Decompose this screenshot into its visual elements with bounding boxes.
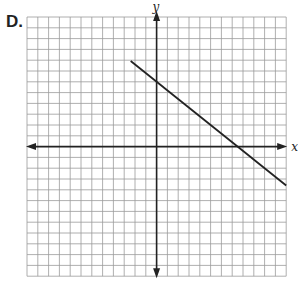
axes <box>26 11 287 278</box>
x-axis-label: x <box>291 140 298 154</box>
coordinate-graph: x y <box>0 0 298 283</box>
y-axis-label: y <box>152 0 160 14</box>
plotted-line <box>131 61 287 185</box>
